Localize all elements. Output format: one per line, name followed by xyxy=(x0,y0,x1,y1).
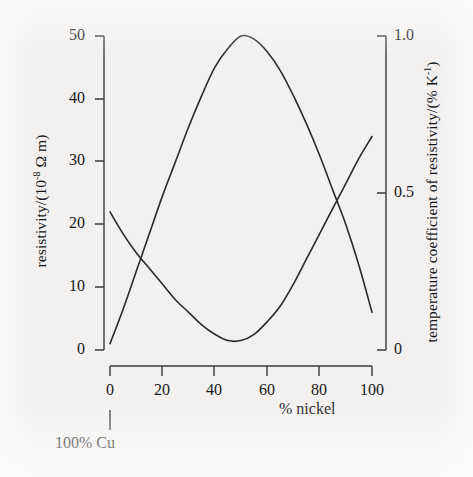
left-tick-label-30: 30 xyxy=(41,151,85,169)
right-tick-label-0: 0 xyxy=(394,340,438,358)
series-line-resistivity xyxy=(110,35,372,343)
left-tick-label-20: 20 xyxy=(41,214,85,232)
left-axis xyxy=(95,36,104,350)
x-tick-label-80: 80 xyxy=(296,381,342,399)
right-tick-label-0-5: 0.5 xyxy=(394,183,438,201)
left-tick-label-50: 50 xyxy=(41,26,85,44)
right-axis-title-prefix: temperature coefficient of resistivity/(… xyxy=(423,75,440,342)
series-line-temperature-coefficient xyxy=(110,136,372,341)
left-tick-label-40: 40 xyxy=(41,89,85,107)
x-axis-ticks xyxy=(110,366,372,376)
x-axis xyxy=(110,366,372,376)
left-tick-label-0: 0 xyxy=(41,340,85,358)
x-tick-label-40: 40 xyxy=(191,381,237,399)
x-tick-label-60: 60 xyxy=(244,381,290,399)
x-tick-label-0: 0 xyxy=(87,381,133,399)
cu-annotation-label: 100% Cu xyxy=(55,434,115,452)
right-axis xyxy=(377,36,386,350)
right-axis-ticks xyxy=(377,36,386,350)
right-axis-title-exponent: -1 xyxy=(422,67,433,75)
right-axis-title-suffix: ) xyxy=(423,62,440,67)
right-tick-label-1-0: 1.0 xyxy=(394,26,438,44)
x-tick-label-20: 20 xyxy=(139,381,185,399)
left-axis-ticks xyxy=(95,36,104,350)
left-axis-title-exponent: -8 xyxy=(31,172,42,180)
chart-plot-area xyxy=(0,0,473,477)
figure-chart-cu-ni-resistivity: resistivity/(10-8 Ω m) temperature coeff… xyxy=(0,0,473,477)
right-axis-title: temperature coefficient of resistivity/(… xyxy=(423,37,441,367)
x-tick-label-100: 100 xyxy=(349,381,395,399)
left-tick-label-10: 10 xyxy=(41,277,85,295)
x-axis-title: % nickel xyxy=(279,400,335,418)
